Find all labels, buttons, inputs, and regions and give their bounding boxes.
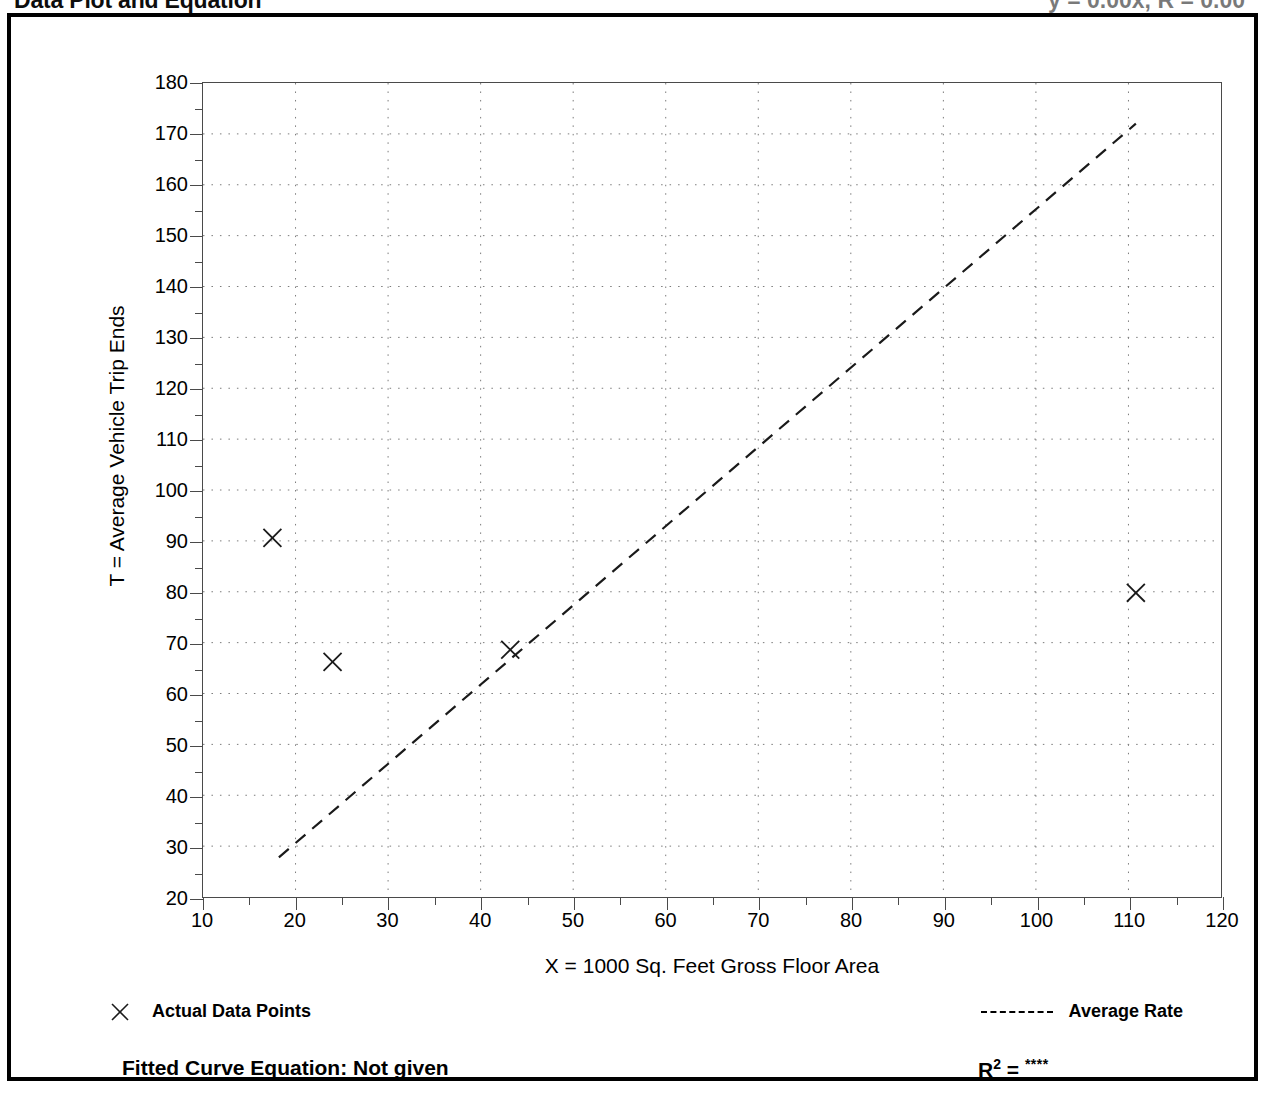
y-tick-mark-minor [195,160,203,161]
x-tick-label: 80 [840,909,862,932]
y-tick-mark-minor [195,772,203,773]
fitted-curve-equation: Fitted Curve Equation: Not given [122,1056,449,1080]
y-tick-label: 50 [166,734,188,757]
x-tick-label: 30 [376,909,398,932]
y-tick-mark-minor [195,619,203,620]
x-tick-label: 50 [562,909,584,932]
data-point-marker [324,653,342,671]
x-tick-mark-minor [713,897,714,905]
y-tick-label: 60 [166,683,188,706]
y-tick-mark-minor [195,211,203,212]
y-tick-label: 20 [166,887,188,910]
page-title-right-fragment: y = 0.00x, R = 0.00 [1048,0,1245,14]
x-tick-label: 120 [1205,909,1238,932]
y-tick-mark-major [190,83,203,84]
page-title: Data Plot and Equation [14,0,261,14]
y-tick-mark-major [190,593,203,594]
x-tick-mark-minor [342,897,343,905]
x-tick-label: 10 [191,909,213,932]
y-tick-mark-major [190,491,203,492]
x-tick-mark-minor [528,897,529,905]
x-tick-mark-minor [1084,897,1085,905]
x-tick-mark-minor [898,897,899,905]
y-tick-label: 180 [155,71,188,94]
y-tick-mark-major [190,899,203,900]
y-tick-label: 90 [166,530,188,553]
r-squared-equals: = [1007,1058,1019,1081]
legend: Actual Data Points Average Rate [10,1001,1261,1035]
legend-item-actual-data-points: Actual Data Points [110,1001,311,1022]
y-tick-label: 100 [155,479,188,502]
data-point-marker [263,529,281,547]
x-tick-label: 40 [469,909,491,932]
y-tick-mark-minor [195,415,203,416]
x-tick-mark-minor [1177,897,1178,905]
x-tick-label: 100 [1020,909,1053,932]
y-tick-mark-minor [195,568,203,569]
legend-label-average-rate: Average Rate [1069,1001,1183,1022]
x-tick-mark-minor [435,897,436,905]
y-tick-mark-minor [195,670,203,671]
y-tick-mark-minor [195,109,203,110]
y-tick-label: 170 [155,122,188,145]
x-tick-mark-minor [620,897,621,905]
x-tick-mark-minor [806,897,807,905]
r-squared-block: R2 = **** [978,1056,1049,1082]
r-squared-value: **** [1025,1056,1049,1072]
r-squared-exponent: 2 [993,1056,1001,1072]
y-tick-mark-major [190,542,203,543]
plot-area [202,82,1222,898]
y-tick-mark-major [190,797,203,798]
y-tick-mark-major [190,134,203,135]
footer-row: Fitted Curve Equation: Not given R2 = **… [10,1056,1261,1092]
y-tick-mark-minor [195,517,203,518]
legend-label-actual-data-points: Actual Data Points [152,1001,311,1022]
cross-marker-icon [110,1002,130,1022]
y-tick-mark-major [190,695,203,696]
y-tick-label: 130 [155,326,188,349]
y-tick-mark-major [190,848,203,849]
y-tick-mark-major [190,644,203,645]
y-tick-label: 150 [155,224,188,247]
figure-card: T = Average Vehicle Trip Ends 2030405060… [7,13,1258,1081]
r-squared-label: R [978,1058,993,1081]
y-tick-label: 40 [166,785,188,808]
legend-item-average-rate: Average Rate [981,1001,1183,1022]
y-tick-label: 70 [166,632,188,655]
dashed-line-icon [981,1011,1053,1013]
y-tick-mark-minor [195,874,203,875]
y-tick-mark-minor [195,313,203,314]
data-series-layer [203,83,1221,897]
x-axis-title: X = 1000 Sq. Feet Gross Floor Area [202,954,1222,978]
x-tick-label: 90 [933,909,955,932]
average-rate-line [279,124,1136,858]
x-tick-label: 20 [284,909,306,932]
y-tick-mark-major [190,236,203,237]
x-tick-label: 60 [655,909,677,932]
y-tick-mark-minor [195,262,203,263]
y-tick-label: 140 [155,275,188,298]
y-tick-mark-minor [195,364,203,365]
y-tick-mark-minor [195,466,203,467]
x-tick-label: 110 [1113,909,1145,932]
x-axis-tick-labels: 102030405060708090100110120 [202,909,1222,939]
x-tick-label: 70 [747,909,769,932]
y-tick-label: 160 [155,173,188,196]
y-tick-mark-major [190,440,203,441]
y-tick-mark-major [190,185,203,186]
y-tick-label: 120 [155,377,188,400]
y-tick-mark-major [190,389,203,390]
y-tick-mark-major [190,287,203,288]
y-tick-mark-major [190,338,203,339]
data-point-marker [501,641,519,659]
x-tick-mark-minor [249,897,250,905]
y-tick-mark-minor [195,823,203,824]
y-tick-mark-minor [195,721,203,722]
y-tick-label: 110 [156,428,188,451]
y-tick-label: 30 [166,836,188,859]
y-tick-label: 80 [166,581,188,604]
y-tick-mark-major [190,746,203,747]
y-axis-tick-labels: 2030405060708090100110120130140150160170… [110,82,188,898]
x-tick-mark-minor [991,897,992,905]
data-point-marker [1127,584,1145,602]
